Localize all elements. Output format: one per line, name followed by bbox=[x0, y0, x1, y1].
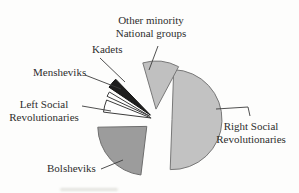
label-other-minority-national-groups: Other minority National groups bbox=[96, 14, 206, 40]
pie-chart-figure: Other minority National groups Kadets Me… bbox=[0, 0, 299, 193]
pie-slices bbox=[98, 61, 222, 175]
label-left-social-revolutionaries: Left Social Revolutionaries bbox=[2, 98, 86, 124]
label-right-sr-line2: Revolutionaries bbox=[205, 133, 297, 146]
leader-line-kadets bbox=[100, 58, 125, 82]
label-left-sr-line1: Left Social bbox=[2, 98, 86, 111]
label-bolsheviks: Bolsheviks bbox=[47, 162, 96, 175]
scan-smudge-artifact bbox=[60, 188, 118, 191]
label-other-minority-line1: Other minority bbox=[96, 14, 206, 27]
label-kadets: Kadets bbox=[92, 43, 123, 56]
label-left-sr-line2: Revolutionaries bbox=[2, 111, 86, 124]
label-other-minority-line2: National groups bbox=[96, 27, 206, 40]
label-right-sr-line1: Right Social bbox=[205, 120, 297, 133]
label-mensheviks: Mensheviks bbox=[33, 66, 86, 79]
label-right-social-revolutionaries: Right Social Revolutionaries bbox=[205, 120, 297, 146]
